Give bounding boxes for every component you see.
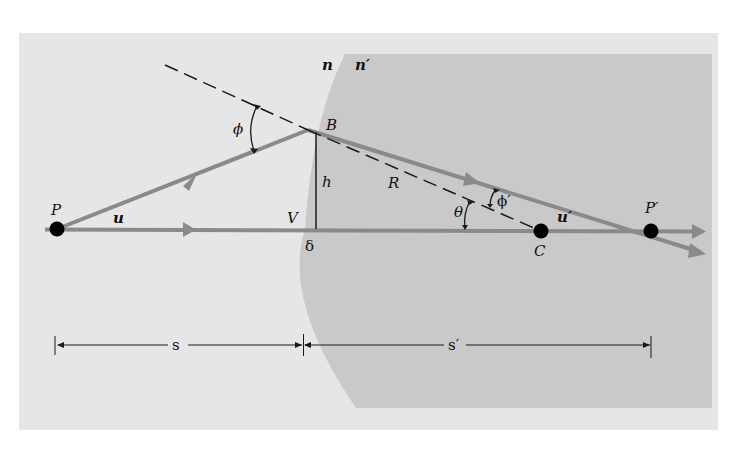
label-h: h [322, 173, 332, 191]
label-phi-prime: ϕ′ [497, 192, 511, 210]
label-u-prime: u′ [557, 208, 572, 226]
label-u: u [113, 209, 124, 227]
label-R: R [387, 174, 399, 192]
label-s-prime: s′ [448, 336, 460, 354]
refraction-diagram: n n′ B ϕ h R P u V θ ϕ′ u′ P′ C δ s s′ [0, 0, 741, 449]
label-theta: θ [454, 203, 463, 221]
point-P-prime [644, 224, 659, 239]
label-s: s [172, 336, 180, 354]
label-P: P [50, 201, 62, 219]
label-B: B [325, 116, 337, 134]
label-phi: ϕ [233, 120, 243, 138]
label-n-prime: n′ [355, 56, 370, 74]
label-P-prime: P′ [644, 199, 659, 217]
optical-axis-ray [45, 230, 700, 232]
label-C: C [534, 242, 546, 260]
point-P [50, 222, 65, 237]
label-n: n [322, 56, 333, 74]
point-C [534, 224, 549, 239]
label-delta: δ [305, 237, 314, 255]
